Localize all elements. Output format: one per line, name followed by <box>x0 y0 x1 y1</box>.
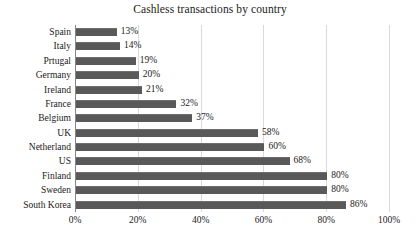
bar-row: 68% <box>75 154 389 168</box>
bar <box>76 157 290 165</box>
bar-row: 32% <box>75 97 389 111</box>
bar <box>76 186 327 194</box>
x-tick-label: 60% <box>255 214 272 226</box>
bar <box>76 100 176 108</box>
category-label: Prtugal <box>0 54 71 68</box>
category-label: South Korea <box>0 198 71 212</box>
category-label: US <box>0 154 71 168</box>
bar-value-label: 14% <box>124 38 141 52</box>
category-label: Germany <box>0 68 71 82</box>
category-label: France <box>0 97 71 111</box>
bar <box>76 86 142 94</box>
bar-value-label: 80% <box>331 182 348 196</box>
category-label: Sweden <box>0 183 71 197</box>
x-tick-label: 80% <box>317 214 334 226</box>
category-label: Ireland <box>0 83 71 97</box>
bar <box>76 42 120 50</box>
bar <box>76 71 139 79</box>
x-tick-label: 40% <box>192 214 209 226</box>
gridline-100 <box>389 25 390 212</box>
category-label: Netherland <box>0 140 71 154</box>
bar-row: 58% <box>75 126 389 140</box>
bar-row: 14% <box>75 39 389 53</box>
x-tick-label: 0% <box>69 214 82 226</box>
bar <box>76 172 327 180</box>
bar-row: 80% <box>75 169 389 183</box>
bar <box>76 28 117 36</box>
bar-value-label: 20% <box>143 67 160 81</box>
bar-value-label: 32% <box>180 96 197 110</box>
bar-value-label: 37% <box>196 110 213 124</box>
bar-row: 19% <box>75 54 389 68</box>
bar-row: 20% <box>75 68 389 82</box>
bar-row: 86% <box>75 198 389 212</box>
bar-row: 13% <box>75 25 389 39</box>
bar-value-label: 21% <box>146 82 163 96</box>
bar <box>76 129 258 137</box>
x-tick-label: 20% <box>129 214 146 226</box>
bar-value-label: 58% <box>262 125 279 139</box>
bar-value-label: 86% <box>350 197 367 211</box>
category-label: Belgium <box>0 111 71 125</box>
bar-row: 80% <box>75 183 389 197</box>
category-label: Italy <box>0 39 71 53</box>
bar-value-label: 13% <box>121 24 138 38</box>
bar-chart: Cashless transactions by country SpainIt… <box>0 0 420 242</box>
bar <box>76 201 346 209</box>
category-label: Finland <box>0 169 71 183</box>
bar-value-label: 68% <box>294 153 311 167</box>
bar-value-label: 19% <box>140 53 157 67</box>
bar-row: 37% <box>75 111 389 125</box>
bar <box>76 143 264 151</box>
bar <box>76 57 136 65</box>
bar-row: 60% <box>75 140 389 154</box>
x-tick-label: 100% <box>378 214 400 226</box>
category-label: UK <box>0 126 71 140</box>
plot-area: 13%14%19%20%21%32%37%58%60%68%80%80%86% <box>75 25 389 212</box>
bar-row: 21% <box>75 83 389 97</box>
chart-title: Cashless transactions by country <box>0 2 420 16</box>
bar-value-label: 60% <box>268 139 285 153</box>
bar <box>76 114 192 122</box>
bar-value-label: 80% <box>331 168 348 182</box>
category-label: Spain <box>0 25 71 39</box>
